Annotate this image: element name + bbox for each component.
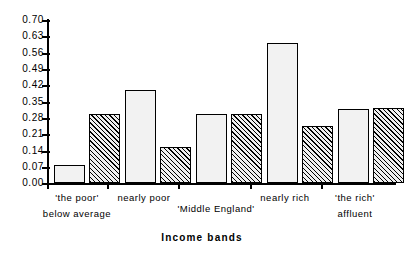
bar-middle-england-dotted	[196, 114, 227, 183]
y-tick-label: 0.35	[2, 97, 44, 107]
bar-nearly-poor-hatched	[160, 147, 191, 183]
x-group-label-nearly-poor-line1: nearly poor	[105, 192, 183, 203]
y-tick-label: 0.14	[2, 146, 44, 156]
y-tick-label: 0.63	[2, 31, 44, 41]
x-group-label-middle-england-line1: 'Middle England'	[166, 203, 266, 214]
x-group-label-nearly-poor: nearly poor	[105, 192, 183, 203]
x-group-label-nearly-rich-line1: nearly rich	[246, 192, 324, 203]
x-group-label-poor-line2: below average	[18, 208, 136, 219]
x-axis-line	[47, 183, 396, 185]
y-tick-label: 0.70	[2, 15, 44, 25]
income-bands-bar-chart: 0.70 0.63 0.56 0.49 0.42 0.35 0.28 0.21 …	[0, 0, 404, 259]
y-tick-label: 0.56	[2, 48, 44, 58]
x-group-label-rich: 'the rich' affluent	[314, 192, 396, 219]
bar-poor-dotted	[54, 165, 85, 184]
x-group-label-nearly-rich: nearly rich	[246, 192, 324, 203]
y-tick-label: 0.49	[2, 64, 44, 74]
bar-middle-england-hatched	[231, 114, 262, 183]
x-group-label-rich-line2: affluent	[314, 208, 396, 219]
bar-nearly-poor-dotted	[125, 90, 156, 183]
bar-nearly-rich-hatched	[302, 126, 333, 183]
y-tick-label: 0.07	[2, 162, 44, 172]
plot-area	[48, 21, 396, 183]
x-group-label-rich-line1: 'the rich'	[314, 192, 396, 203]
bar-poor-hatched	[89, 114, 120, 183]
x-group-label-middle-england: 'Middle England'	[166, 203, 266, 214]
bar-rich-dotted	[338, 109, 369, 183]
y-tick-label: 0.42	[2, 80, 44, 90]
y-tick-label: 0.21	[2, 129, 44, 139]
x-axis-title: Income bands	[0, 232, 404, 243]
bar-nearly-rich-dotted	[267, 43, 298, 183]
y-tick-label: 0.00	[2, 178, 44, 188]
bar-rich-hatched	[373, 108, 404, 183]
y-tick-label: 0.28	[2, 113, 44, 123]
